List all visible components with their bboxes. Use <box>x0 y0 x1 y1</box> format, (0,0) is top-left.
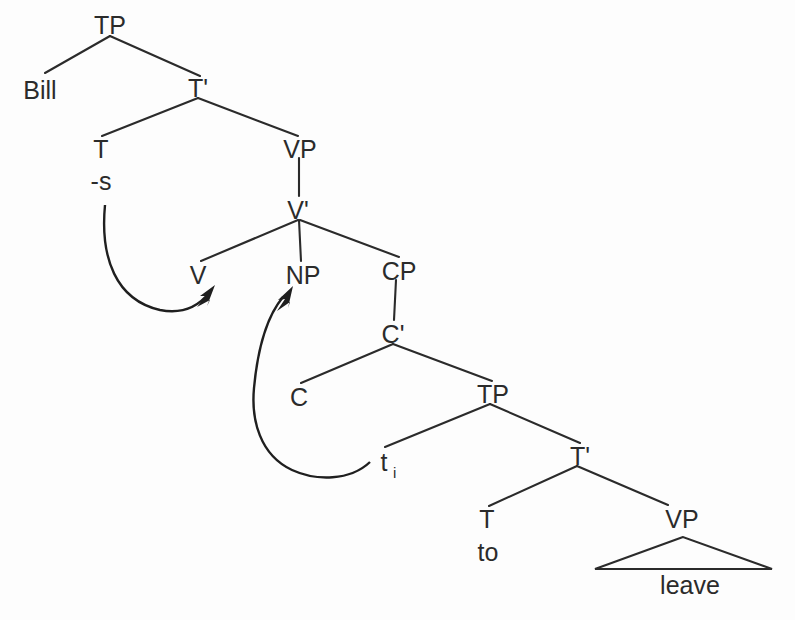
leaf-to: to <box>478 538 499 566</box>
node-tp-lower: TP <box>477 380 509 408</box>
leaf-leave: leave <box>660 571 720 599</box>
branch-tbar1-to-t1 <box>102 98 198 136</box>
node-v-bar: V' <box>287 196 308 224</box>
node-vp-lower: VP <box>665 505 698 533</box>
branch-group-lower-tbar <box>489 466 668 506</box>
node-t-bar-upper: T' <box>188 74 208 102</box>
branch-group-lower-tp <box>385 404 580 447</box>
branch-tp-to-tbar1 <box>110 36 200 76</box>
branch-vbar-to-np <box>299 220 301 261</box>
node-v: V <box>190 261 207 289</box>
branch-group-upper-tbar <box>102 98 298 136</box>
branch-cp-to-cbar <box>394 280 396 320</box>
node-cp: CP <box>382 257 417 285</box>
syntax-tree-canvas: TP Bill T' T -s VP V' V NP CP C' C TP t … <box>0 0 795 620</box>
branch-vbar-to-v1 <box>201 220 298 261</box>
branch-tp-to-bill <box>45 36 110 73</box>
affix-hopping-arrow-path <box>104 205 209 311</box>
node-trace-t: t <box>381 448 388 476</box>
syntax-tree-figure: TP Bill T' T -s VP V' V NP CP C' C TP t … <box>0 0 795 620</box>
branch-tbar2-to-vp2 <box>577 466 668 505</box>
branch-tp2-to-trace <box>385 404 490 447</box>
branch-tbar1-to-vp1 <box>198 98 298 136</box>
branch-group-cbar <box>301 344 492 383</box>
node-t-bar-lower: T' <box>570 442 590 470</box>
vp2-triangle-group <box>595 537 772 569</box>
node-c-head: C <box>290 383 308 411</box>
node-vp-upper: VP <box>283 135 316 163</box>
node-tp-root: TP <box>94 11 126 39</box>
vp-ellipsis-triangle-icon <box>595 537 772 569</box>
branch-vbar-to-cp <box>300 220 399 257</box>
branch-group-cp <box>394 280 396 320</box>
node-c-bar: C' <box>382 320 405 348</box>
leaf-suffix-s: -s <box>91 167 112 195</box>
branch-tbar2-to-t2 <box>489 466 577 506</box>
affix-hopping-arrow <box>104 205 215 311</box>
node-trace-group: t i <box>381 448 397 481</box>
node-t-lower: T <box>479 505 494 533</box>
leaf-bill: Bill <box>23 76 56 104</box>
trace-movement-arrow-path <box>253 297 370 477</box>
node-np: NP <box>286 261 321 289</box>
branch-group-upper-tp <box>45 36 200 76</box>
branch-group-vbar <box>201 220 399 261</box>
branch-tp2-to-tbar2 <box>490 404 580 443</box>
trace-movement-arrowhead-icon <box>277 286 293 311</box>
node-trace-subscript: i <box>393 464 396 481</box>
branch-cbar-to-tp2 <box>393 344 492 381</box>
branch-cbar-to-c <box>301 344 393 383</box>
node-t-upper: T <box>93 135 108 163</box>
trace-movement-arrow <box>253 286 370 477</box>
